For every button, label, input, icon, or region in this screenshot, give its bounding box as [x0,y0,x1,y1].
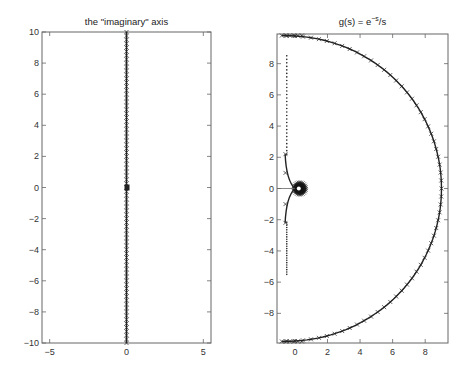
axis-image-dot [286,97,288,99]
axis-image-dot [286,264,288,266]
x-tick-label-right: 8 [423,347,428,357]
marks-right [277,34,443,344]
y-tick-label-left: −10 [24,338,39,348]
axis-image-dot [286,248,288,250]
axis-image-dot [286,115,288,117]
semicircle-point [410,276,414,280]
axis-image-dot [286,132,288,134]
axis-image-dot [286,66,288,68]
axis-image-dot [286,80,288,82]
semicircle-point [400,289,404,293]
axis-image-dot [286,143,288,145]
y-tick-label-right: 6 [269,90,274,100]
semicircle-point [388,73,392,77]
semicircle-point [369,315,373,319]
axis-image-dot [286,59,288,61]
semicircle-point [382,68,386,72]
axis-image-dot [286,90,288,92]
axis-image-dot [286,255,288,257]
semicircle-point [400,84,404,88]
title-base: g(s) = e [339,16,371,27]
y-tick-label-left: −8 [29,307,39,317]
x-tick-label-left: 0 [124,347,129,357]
semicircle-point [405,90,409,94]
axis-image-dot [286,259,288,261]
axis-image-dot [286,118,288,120]
axis-image-dot [286,73,288,75]
panel-g-of-s: g(s) = e−s/s 02468−8−6−4−202468 [264,15,448,357]
axis-image-dot [286,108,288,110]
axis-image-dot [286,125,288,127]
x-tick-label-right: 2 [325,347,330,357]
axis-image-dot [286,87,288,89]
axis-image-dot [286,129,288,131]
axis-image-dot [286,262,288,264]
semicircle-point [394,294,398,298]
semicircle-point [405,283,409,287]
y-tick-label-right: 2 [269,152,274,162]
origin-loop-hole [297,187,301,191]
x-tick-label-left: −5 [45,347,55,357]
panel-imaginary-axis: the "imaginary" axis −505−10−8−6−4−20246… [24,16,211,357]
y-tick-label-right: −6 [264,277,274,287]
axis-image-dot [286,257,288,259]
axis-image-dot [286,229,288,231]
semicircle-point [376,310,380,314]
title-g-of-s: g(s) = e−s/s [339,15,387,27]
ticks-left: −505−10−8−6−4−20246810 [24,27,211,357]
axis-image-dot [286,236,288,238]
y-tick-label-left: 2 [34,151,39,161]
axis-image-dot [286,245,288,247]
axis-image-dot [286,101,288,103]
semicircle-point [388,300,392,304]
axis-image-dot [286,76,288,78]
axis-image-dot [286,238,288,240]
title-imaginary-axis: the "imaginary" axis [85,16,169,27]
y-tick-label-left: −4 [29,245,39,255]
semicircle-point [410,97,414,101]
y-tick-label-right: −8 [264,308,274,318]
axis-image-dot [286,69,288,71]
marks-left [125,30,130,345]
origin-cluster [125,185,130,191]
axis-image-dot [286,250,288,252]
y-tick-label-left: −6 [29,276,39,286]
axis-image-dot [286,139,288,141]
semicircle-point [394,79,398,83]
semicircle-point [415,103,419,107]
x-tick-label-right: 4 [358,347,363,357]
axis-image-dot [286,241,288,243]
axis-image-dot [286,227,288,229]
x-tick-label-right: 0 [292,347,297,357]
x-tick-label-right: 6 [390,347,395,357]
axis-image-dot [286,243,288,245]
semicircle-point [415,270,419,274]
figure: the "imaginary" axis −505−10−8−6−4−20246… [0,0,471,374]
title-tail: /s [379,16,387,27]
ticks-right: 02468−8−6−4−202468 [264,34,448,357]
semicircle-point [376,63,380,67]
axis-image-dot [286,252,288,254]
axis-image-dot [286,62,288,64]
axis-image-dot [286,267,288,269]
y-tick-label-left: 10 [29,27,39,37]
y-tick-label-left: −2 [29,214,39,224]
y-tick-label-left: 8 [34,58,39,68]
y-tick-label-left: 4 [34,120,39,130]
axis-image-dot [286,146,288,148]
axis-image-dot [286,111,288,113]
y-tick-label-right: 4 [269,121,274,131]
axis-image-dot [286,94,288,96]
axis-image-dot [286,274,288,276]
y-tick-label-right: −4 [264,246,274,256]
axis-image-dot [286,104,288,106]
axis-image-dot [286,150,288,152]
y-tick-label-left: 0 [34,183,39,193]
y-tick-label-left: 6 [34,89,39,99]
axis-image-dot [286,136,288,138]
y-tick-label-right: 0 [269,184,274,194]
y-tick-label-right: 8 [269,59,274,69]
semicircle-point [369,58,373,62]
axis-image-dot [286,271,288,273]
axis-image-dot [286,122,288,124]
